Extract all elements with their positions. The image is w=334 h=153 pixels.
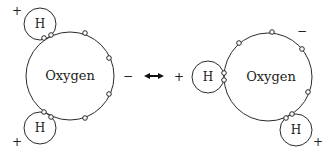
left-hydrogen-top-label: H [35, 17, 45, 31]
electron-dot [237, 41, 242, 46]
electron-dot [107, 92, 112, 97]
electron-dot [290, 112, 295, 117]
electron-dot [42, 110, 47, 115]
left-hydrogen-bottom-label: H [35, 121, 45, 135]
right-bottom-h-charge: + [313, 135, 323, 149]
right-hydrogen-left-label: H [203, 70, 213, 84]
electron-dot [270, 30, 275, 35]
electron-dot [49, 115, 54, 120]
right-oxygen-label: Oxygen [246, 69, 296, 84]
electron-dot [49, 33, 54, 38]
electron-dot [300, 47, 305, 52]
right-oxygen-charge: − [297, 24, 307, 38]
electron-dot [284, 116, 289, 121]
left-molecule: Oxygen H H + + − [12, 4, 133, 149]
double-headed-arrow-icon [144, 73, 164, 79]
electron-dot [107, 56, 112, 61]
electron-dot [42, 36, 47, 41]
left-oxygen-label: Oxygen [45, 68, 95, 83]
left-top-h-charge: + [12, 4, 22, 18]
electron-dot [83, 116, 88, 121]
electron-dot [306, 90, 311, 95]
right-hydrogen-bottom-label: H [291, 123, 301, 137]
left-bottom-h-charge: + [12, 135, 22, 149]
right-molecule: Oxygen H H + + − [174, 24, 323, 149]
electron-dot [83, 31, 88, 36]
electron-dot [222, 78, 227, 83]
water-molecule-diagram: Oxygen H H + + − Oxygen H H + + − [0, 0, 334, 153]
electron-dot [222, 71, 227, 76]
left-oxygen-charge: − [123, 69, 133, 83]
right-left-h-charge: + [174, 70, 184, 84]
